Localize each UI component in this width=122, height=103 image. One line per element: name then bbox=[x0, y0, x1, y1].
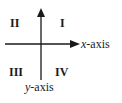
x-axis-suffix: -axis bbox=[86, 37, 109, 51]
quadrant-ii-label: II bbox=[10, 17, 19, 29]
y-axis-suffix: -axis bbox=[30, 80, 53, 94]
x-axis-label: x-axis bbox=[81, 38, 110, 50]
quadrant-iii-label: III bbox=[9, 66, 23, 78]
quadrant-iv-label: IV bbox=[55, 66, 68, 78]
x-axis-arrow-icon bbox=[70, 40, 80, 48]
y-axis-label: y-axis bbox=[25, 81, 54, 93]
y-axis-arrow-icon bbox=[37, 8, 45, 17]
quadrant-i-label: I bbox=[60, 17, 65, 29]
